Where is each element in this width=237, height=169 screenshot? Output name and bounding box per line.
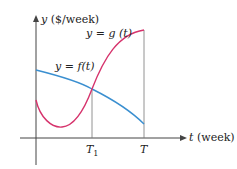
g-curve [36, 30, 144, 127]
t-tick-label: T [140, 143, 147, 156]
chart: y ($/week) y = g (t) y = f(t) T1 T t (we… [0, 0, 237, 169]
y-axis-label: y ($/week) [41, 13, 99, 26]
f-label: y = f(t) [55, 60, 95, 73]
x-axis-label: t (week) [189, 131, 235, 144]
g-label: y = g (t) [86, 27, 132, 40]
x-axis-arrow-icon [180, 135, 187, 141]
y-axis-arrow-icon [33, 15, 39, 22]
f-curve [36, 70, 144, 124]
t1-tick-label: T1 [86, 143, 98, 158]
